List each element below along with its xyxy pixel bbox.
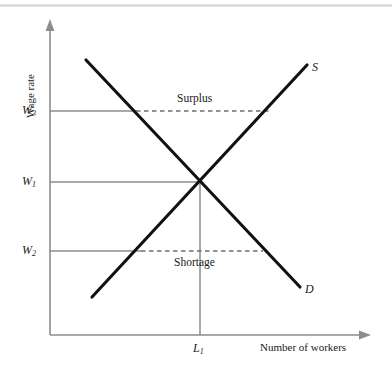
- y-tick-label-w1: W1: [22, 174, 36, 189]
- x-axis-title: Number of workers: [260, 341, 346, 353]
- y-tick-label-w3-base: W: [22, 103, 32, 117]
- y-tick-label-w2: W2: [22, 243, 36, 258]
- supply-demand-chart-figure: Wage rate Number of workers W3 W1 W2 L1 …: [0, 0, 392, 370]
- supply-curve-label: S: [312, 60, 318, 75]
- y-axis-arrowhead: [46, 19, 55, 31]
- y-tick-label-w3-sub: 3: [32, 109, 36, 118]
- y-tick-label-w1-sub: 1: [32, 180, 36, 189]
- surplus-label: Surplus: [177, 92, 212, 104]
- chart-canvas: [0, 0, 392, 370]
- x-tick-label-l1-sub: 1: [200, 347, 204, 356]
- y-tick-label-w3: W3: [22, 103, 36, 118]
- y-tick-label-w1-base: W: [22, 174, 32, 188]
- reference-lines-group: [50, 111, 200, 335]
- x-tick-label-l1: L1: [193, 341, 204, 356]
- demand-curve-label: D: [305, 282, 314, 297]
- x-axis-arrowhead: [359, 331, 371, 340]
- shortage-label: Shortage: [174, 256, 215, 268]
- y-tick-label-w2-sub: 2: [32, 249, 36, 258]
- dashed-span-group: [136, 111, 271, 251]
- x-tick-label-l1-base: L: [193, 341, 200, 355]
- y-tick-label-w2-base: W: [22, 243, 32, 257]
